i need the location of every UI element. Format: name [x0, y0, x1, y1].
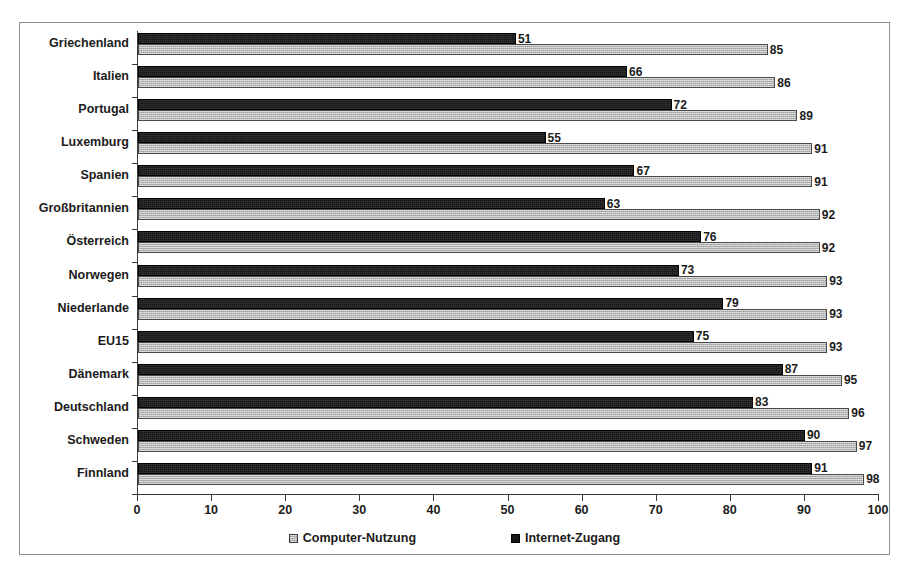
bar-value-label: 72 [674, 99, 687, 111]
x-axis-tick [508, 495, 509, 501]
bar-value-label: 98 [866, 473, 879, 485]
bar-value-label: 86 [777, 77, 790, 89]
bar-value-label: 96 [851, 407, 864, 419]
bar-value-label: 90 [807, 429, 820, 441]
bar-value-label: 76 [703, 231, 716, 243]
bar-internet: 75 [138, 331, 694, 342]
x-axis-tick [878, 495, 879, 501]
bar-group: Österreich7692 [138, 229, 879, 262]
x-axis-tick-label: 10 [204, 503, 218, 518]
x-axis-tick [137, 495, 138, 501]
bar-computer: 89 [138, 110, 797, 121]
legend-label: Computer-Nutzung [303, 531, 416, 546]
bar-value-label: 93 [829, 308, 842, 320]
category-label: Schweden [0, 433, 129, 448]
x-axis-tick [359, 495, 360, 501]
x-axis-tick-label: 80 [723, 503, 737, 518]
x-axis-tick [804, 495, 805, 501]
category-label: Österreich [0, 234, 129, 249]
x-axis-tick [656, 495, 657, 501]
bar-internet: 87 [138, 364, 783, 375]
bar-computer: 92 [138, 209, 820, 220]
bar-value-label: 87 [785, 363, 798, 375]
x-axis-tick-label: 70 [649, 503, 663, 518]
bar-group: Griechenland5185 [138, 31, 879, 64]
bar-computer: 93 [138, 309, 827, 320]
x-axis-tick-label: 90 [797, 503, 811, 518]
chart-legend: Computer-NutzungInternet-Zugang [20, 531, 889, 546]
bar-value-label: 92 [822, 242, 835, 254]
bar-internet: 73 [138, 265, 679, 276]
bar-group: Niederlande7993 [138, 296, 879, 329]
bar-value-label: 91 [814, 176, 827, 188]
legend-swatch-icon [511, 534, 520, 543]
bar-value-label: 79 [725, 297, 738, 309]
x-axis-tick [730, 495, 731, 501]
bar-internet: 79 [138, 298, 723, 309]
category-label: Spanien [0, 168, 129, 183]
bar-group: Dänemark8795 [138, 362, 879, 395]
bar-group: Spanien6791 [138, 163, 879, 196]
plot-area: Griechenland5185Italien6686Portugal7289L… [137, 31, 879, 494]
category-label: Dänemark [0, 367, 129, 382]
bar-internet: 76 [138, 231, 701, 242]
bar-computer: 86 [138, 77, 775, 88]
x-axis-tick-label: 30 [352, 503, 366, 518]
bar-computer: 96 [138, 408, 849, 419]
bar-computer: 98 [138, 474, 864, 485]
bar-computer: 92 [138, 242, 820, 253]
bar-value-label: 92 [822, 209, 835, 221]
bar-internet: 55 [138, 132, 546, 143]
bar-group: Luxemburg5591 [138, 130, 879, 163]
legend-item-computer[interactable]: Computer-Nutzung [289, 531, 416, 546]
bar-value-label: 51 [518, 33, 531, 45]
bar-value-label: 75 [696, 330, 709, 342]
bar-internet: 90 [138, 430, 805, 441]
bar-internet: 51 [138, 33, 516, 44]
bar-value-label: 67 [636, 165, 649, 177]
bar-computer: 95 [138, 375, 842, 386]
category-label: Luxemburg [0, 135, 129, 150]
bar-value-label: 91 [814, 462, 827, 474]
bar-value-label: 66 [629, 66, 642, 78]
bar-group: Großbritannien6392 [138, 196, 879, 229]
bar-value-label: 83 [755, 396, 768, 408]
bar-value-label: 95 [844, 374, 857, 386]
bar-internet: 67 [138, 165, 634, 176]
bar-internet: 83 [138, 397, 753, 408]
bar-internet: 72 [138, 99, 672, 110]
bar-group: Portugal7289 [138, 97, 879, 130]
category-label: Italien [0, 69, 129, 84]
bar-computer: 85 [138, 44, 768, 55]
x-axis-tick [433, 495, 434, 501]
bar-group: Schweden9097 [138, 428, 879, 461]
bar-internet: 63 [138, 198, 605, 209]
bar-computer: 93 [138, 342, 827, 353]
x-axis-tick-label: 50 [501, 503, 515, 518]
bar-computer: 91 [138, 176, 812, 187]
bar-value-label: 97 [859, 440, 872, 452]
category-label: Niederlande [0, 301, 129, 316]
legend-swatch-icon [289, 534, 298, 543]
bar-group: Italien6686 [138, 64, 879, 97]
bar-computer: 91 [138, 143, 812, 154]
category-label: EU15 [0, 334, 129, 349]
category-label: Portugal [0, 102, 129, 117]
x-axis-tick-label: 60 [575, 503, 589, 518]
x-axis-tick [582, 495, 583, 501]
x-axis-tick-label: 20 [278, 503, 292, 518]
legend-label: Internet-Zugang [525, 531, 620, 546]
bar-value-label: 55 [548, 132, 561, 144]
category-label: Griechenland [0, 36, 129, 51]
chart-frame: Griechenland5185Italien6686Portugal7289L… [19, 22, 890, 555]
x-axis-tick-label: 0 [134, 503, 141, 518]
bar-value-label: 85 [770, 44, 783, 56]
legend-item-internet[interactable]: Internet-Zugang [511, 531, 620, 546]
category-label: Großbritannien [0, 201, 129, 216]
bar-value-label: 91 [814, 143, 827, 155]
x-axis-tick [211, 495, 212, 501]
bar-group: Deutschland8396 [138, 395, 879, 428]
category-label: Finnland [0, 466, 129, 481]
bar-value-label: 73 [681, 264, 694, 276]
bar-internet: 91 [138, 463, 812, 474]
